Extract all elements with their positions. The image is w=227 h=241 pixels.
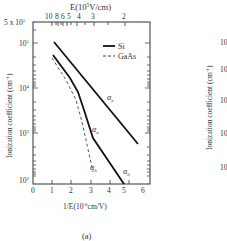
svg-text:103: 103	[19, 129, 30, 138]
svg-text:5: 5	[67, 12, 71, 21]
top-axis-ticks: 10 8 6 5 4 3 2	[45, 12, 126, 21]
gaas-alpha-curve	[52, 58, 93, 172]
svg-text:105: 105	[19, 39, 30, 48]
svg-text:0: 0	[31, 186, 35, 195]
legend-si-label: Si	[118, 42, 125, 51]
svg-text:3: 3	[91, 12, 95, 21]
svg-text:10: 10	[220, 38, 227, 47]
right-y-ticks: 10 10 10 10 10	[220, 38, 227, 172]
label-si-alpha-h: αh	[123, 167, 130, 177]
svg-text:4: 4	[107, 186, 111, 195]
svg-text:10: 10	[220, 129, 227, 138]
svg-text:1: 1	[50, 186, 54, 195]
svg-text:10: 10	[220, 96, 227, 105]
svg-text:4: 4	[77, 12, 81, 21]
legend-gaas-label: GaAs	[118, 52, 136, 61]
right-y-axis-title: Ionization coefficient (cm-1)	[205, 65, 214, 150]
svg-text:104: 104	[19, 84, 30, 93]
svg-text:10: 10	[220, 163, 227, 172]
label-gaas-alpha-e: αe	[92, 125, 99, 135]
svg-text:6: 6	[141, 186, 145, 195]
x-axis-ticks: 0 1 2 3 4 5 6	[31, 186, 145, 195]
svg-text:6: 6	[61, 12, 65, 21]
top-tick-marks	[52, 22, 125, 26]
si-alpha-h-curve	[53, 55, 124, 184]
svg-text:2: 2	[122, 12, 126, 21]
label-si-alpha-e: αe	[107, 93, 114, 103]
svg-text:2: 2	[69, 186, 73, 195]
svg-text:5 x 105: 5 x 105	[4, 18, 26, 27]
svg-text:10: 10	[220, 65, 227, 74]
svg-text:10: 10	[45, 12, 53, 21]
x-axis-title: 1/E(10-6cm/V)	[63, 202, 107, 211]
x-tick-marks	[52, 180, 129, 184]
legend: Si GaAs	[103, 42, 136, 61]
svg-text:8: 8	[55, 12, 59, 21]
plot-frame	[33, 22, 150, 184]
y-axis-title: Ionization coefficient (cm-1)	[5, 73, 14, 158]
svg-text:3: 3	[89, 186, 93, 195]
top-axis-title: E(105V/cm)	[70, 2, 111, 12]
svg-text:5: 5	[122, 186, 126, 195]
panel-label-a: (a)	[82, 231, 92, 241]
ionization-coefficient-figure: E(105V/cm) 10 8 6 5 4 3 2 5 x 105 105 10…	[0, 0, 227, 241]
label-gaas-alpha-h: αh	[90, 163, 97, 173]
svg-text:102: 102	[19, 176, 30, 185]
